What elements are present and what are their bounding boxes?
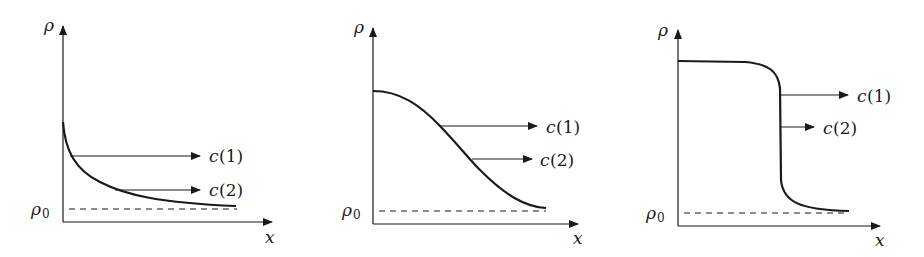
baseline-subscript: 0 <box>657 211 665 225</box>
panel-1: ρ x ρ 0 c (1) c (2) <box>30 15 275 247</box>
arrow-c1-label-name: c <box>546 117 556 137</box>
y-axis-label: ρ <box>43 15 54 35</box>
x-axis-label: x <box>573 228 583 248</box>
arrow-c1-label-arg: (1) <box>867 86 891 106</box>
baseline-label: ρ <box>645 203 656 223</box>
y-axis-label: ρ <box>353 17 364 37</box>
figure-canvas: ρ x ρ 0 c (1) c (2) ρ x ρ 0 c (1) c (2) … <box>0 0 924 257</box>
arrow-c1-label-name: c <box>209 146 219 166</box>
panel-2: ρ x ρ 0 c (1) c (2) <box>341 17 583 248</box>
arrow-c2-label-arg: (2) <box>219 180 243 200</box>
density-curve <box>373 91 546 208</box>
x-axis-label: x <box>265 227 275 247</box>
arrow-c2-label-name: c <box>209 180 219 200</box>
arrow-c2-label-arg: (2) <box>550 150 574 170</box>
baseline-label: ρ <box>341 200 352 220</box>
x-axis-label: x <box>875 230 885 250</box>
panel-3: ρ x ρ 0 c (1) c (2) <box>645 20 891 250</box>
baseline-label: ρ <box>30 199 41 219</box>
baseline-subscript: 0 <box>353 208 361 222</box>
arrow-c2-label-name: c <box>823 118 833 138</box>
y-axis-label: ρ <box>657 20 668 40</box>
arrow-c1-label-arg: (1) <box>556 117 580 137</box>
arrow-c2-label-arg: (2) <box>833 118 857 138</box>
arrow-c2-label-name: c <box>540 150 550 170</box>
arrow-c1-label-arg: (1) <box>219 146 243 166</box>
arrow-c1-label-name: c <box>857 86 867 106</box>
baseline-subscript: 0 <box>42 207 50 221</box>
